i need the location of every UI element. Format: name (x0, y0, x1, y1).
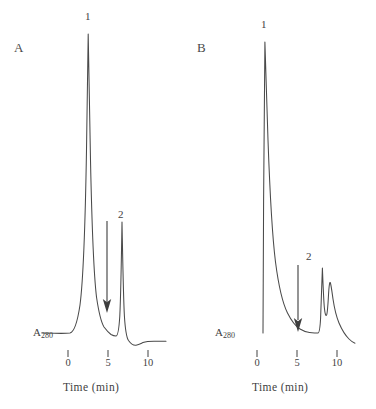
panel-a-tick-label-0: 0 (58, 357, 78, 368)
panel-b-y-axis-label-sub: 280 (223, 331, 235, 340)
chromatogram-figure: A 1 2 A280 0 5 10 Time (min) (0, 0, 376, 409)
panel-b-peak-2-label: 2 (306, 250, 312, 262)
panel-b-tick-label-10: 10 (327, 357, 347, 368)
panel-a-peak-2-label: 2 (118, 208, 124, 220)
panel-a-tick-label-5: 5 (98, 357, 118, 368)
panel-b-letter: B (197, 40, 206, 56)
panel-b: B 1 2 A280 0 5 10 Time (min) (188, 0, 376, 409)
panel-b-tick-label-0: 0 (247, 357, 267, 368)
panel-b-y-axis-label: A280 (215, 326, 235, 338)
panel-a-tick-marks (68, 350, 148, 357)
panel-b-tick-label-5: 5 (287, 357, 307, 368)
panel-b-plot (188, 0, 376, 409)
panel-b-tick-marks (257, 350, 337, 357)
panel-a-injection-arrow (103, 221, 111, 313)
panel-a-peak-1-label: 1 (85, 10, 91, 22)
panel-a-plot (0, 0, 188, 409)
panel-b-y-axis-label-main: A (215, 326, 223, 338)
panel-b-injection-arrow (294, 265, 302, 332)
panel-a-tick-label-10: 10 (138, 357, 158, 368)
panel-a-letter: A (14, 40, 24, 56)
panel-a-x-axis-label: Time (min) (63, 381, 119, 393)
panel-b-x-axis-label: Time (min) (252, 381, 308, 393)
panel-a-y-axis-label-sub: 280 (41, 331, 53, 340)
panel-a-y-axis-label: A280 (33, 326, 53, 338)
panel-a-y-axis-label-main: A (33, 326, 41, 338)
panel-a-trace (42, 34, 166, 345)
panel-b-trace (263, 42, 355, 343)
panel-a: A 1 2 A280 0 5 10 Time (min) (0, 0, 188, 409)
panel-b-peak-1-label: 1 (261, 18, 267, 30)
